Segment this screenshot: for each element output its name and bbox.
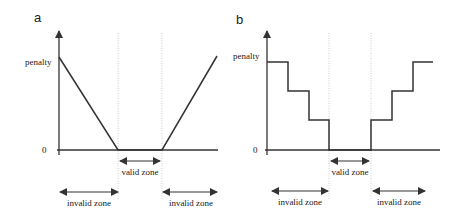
zero-label: 0 [253, 145, 258, 155]
invalid-zone-left-label: invalid zone [67, 198, 111, 208]
invalid-zone-right-label: invalid zone [377, 197, 421, 207]
zero-label: 0 [42, 145, 47, 155]
invalid-zone-left-label: invalid zone [278, 197, 322, 207]
y-axis-label: penalty [25, 57, 52, 67]
panel-a-label: a [34, 10, 42, 25]
invalid-zone-right-label: invalid zone [169, 198, 213, 208]
valid-zone-label: valid zone [331, 167, 368, 177]
panel-b: b penalty 0 valid zone invalid zone inva… [233, 12, 440, 207]
valid-zone-label: valid zone [121, 167, 158, 177]
y-axis-label: penalty [233, 51, 260, 61]
step-penalty-curve [267, 62, 433, 150]
linear-penalty-curve [59, 56, 217, 150]
panel-a: a penalty 0 valid zone invalid zone inva… [25, 10, 218, 208]
panel-b-label: b [236, 12, 243, 27]
penalty-diagram: a penalty 0 valid zone invalid zone inva… [0, 0, 460, 219]
